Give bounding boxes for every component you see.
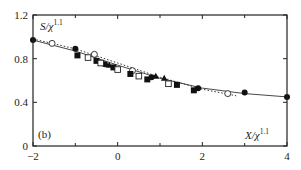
filled-square-marker [191, 87, 197, 93]
x-tick-label: 2 [200, 150, 206, 162]
filled-circle-marker [72, 46, 78, 52]
x-tick-label: 4 [284, 150, 290, 162]
filled-square-marker [127, 71, 133, 77]
plot-frame [33, 15, 287, 146]
y-tick-label: 0 [23, 140, 29, 152]
y-tick-label: 1.2 [14, 9, 28, 21]
filled-square-marker [144, 76, 150, 82]
scatter-chart: −202400.40.81.2 S/χ1.1 X/χ1.1 (b) [0, 0, 301, 170]
open-square-marker [85, 55, 91, 61]
open-square-marker [136, 73, 142, 79]
filled-square-marker [174, 82, 180, 88]
panel-label: (b) [38, 128, 51, 141]
open-circle-marker [91, 51, 97, 57]
y-axis-title: S/χ1.1 [40, 18, 63, 32]
x-tick-label: −2 [27, 150, 39, 162]
data-points [30, 37, 290, 100]
y-tick-label: 0.4 [14, 96, 28, 108]
filled-square-marker [74, 52, 80, 58]
open-circle-marker [49, 40, 55, 46]
filled-circle-marker [242, 90, 248, 96]
open-square-marker [98, 60, 104, 66]
filled-triangle-marker [161, 75, 168, 81]
x-tick-label: 0 [115, 150, 121, 162]
open-square-marker [166, 81, 172, 87]
open-square-marker [115, 67, 121, 73]
solid-fit-curve [33, 40, 287, 97]
open-circle-marker [225, 91, 231, 97]
y-tick-label: 0.8 [14, 53, 28, 65]
x-axis-title: X/χ1.1 [244, 127, 269, 141]
fit-curves [33, 39, 287, 97]
